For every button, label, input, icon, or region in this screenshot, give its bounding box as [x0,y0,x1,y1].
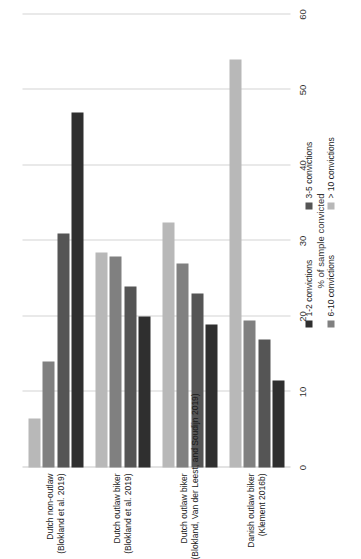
bar [162,222,174,467]
category-label-line1: Dutch outlaw biker [178,473,189,559]
category-label: Danish outlaw biker(Klement 2016b) [245,473,267,559]
gridline [22,89,290,90]
legend-swatch-icon [327,202,334,209]
category-label-line1: Danish outlaw biker [245,473,256,559]
bar [124,286,136,467]
gridline [22,164,290,165]
legend-item[interactable]: 1-2 convictions [303,259,313,327]
category-label-line1: Dutch outlaw biker [111,473,122,559]
category-label: Dutch outlaw biker(Blokland, Van der Lee… [178,473,200,559]
legend-item[interactable]: > 10 convictions [325,137,335,209]
category-label-line2: (Klement 2016b) [256,473,267,559]
bar [205,324,217,467]
category-label-line2: (Blokland et al. 2019) [55,473,66,559]
bar [57,233,69,467]
legend-label: 6-10 convictions [325,255,335,316]
bar-chart-figure: 0102030405060% of sample convicted Dutch… [0,0,361,559]
legend-swatch-icon [305,202,312,209]
bar [138,316,150,467]
category-label: Dutch non-outlaw(Blokland et al. 2019) [44,473,66,559]
legend-swatch-icon [305,320,312,327]
axis-tick-label: 60 [296,9,307,20]
legend-label: 3-5 convictions [303,141,313,198]
legend-label: > 10 convictions [325,137,335,198]
bar [71,112,83,467]
bar [272,380,284,467]
legend-label: 1-2 convictions [303,259,313,316]
bar [258,339,270,467]
bar [42,361,54,467]
bar [28,418,40,467]
chart-rotation-wrapper: 0102030405060% of sample convicted Dutch… [0,0,361,559]
legend-swatch-icon [327,320,334,327]
axis-tick-label: 0 [296,464,307,469]
category-label-line2: (Blokland et al. 2019) [122,473,133,559]
bar [229,59,241,467]
category-label-line2: (Blokland, Van der Leest, and Soudijn 20… [189,473,200,559]
legend-item[interactable]: 3-5 convictions [303,141,313,209]
category-label-line1: Dutch non-outlaw [44,473,55,559]
gridline [22,13,290,14]
bar [109,256,121,467]
legend-item[interactable]: 6-10 convictions [325,255,335,327]
bar [176,263,188,467]
bar [243,320,255,467]
category-label: Dutch outlaw biker(Blokland et al. 2019) [111,473,133,559]
axis-tick-label: 10 [296,386,307,397]
chart-legend: 1-2 convictions3-5 convictions6-10 convi… [303,27,345,327]
bar [95,252,107,467]
